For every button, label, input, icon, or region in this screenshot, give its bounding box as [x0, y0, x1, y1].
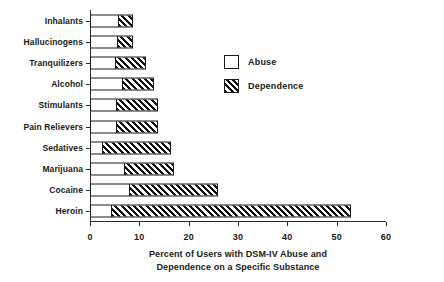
legend-swatch-dependence-icon — [224, 79, 239, 93]
x-tick — [139, 222, 140, 226]
bar-pain-relievers — [90, 120, 158, 133]
x-tick — [90, 222, 91, 226]
bar-segment-dependence — [129, 184, 218, 197]
bar-segment-dependence — [116, 120, 158, 133]
x-tick-label: 40 — [282, 232, 292, 242]
bar-segment-dependence — [117, 35, 133, 48]
x-tick-label: 50 — [331, 232, 341, 242]
chart-figure: 0102030405060 InhalantsHallucinogensTran… — [0, 0, 444, 282]
legend-item-dependence: Dependence — [224, 79, 304, 93]
bar-stimulants — [90, 99, 158, 112]
bar-segment-abuse — [90, 99, 116, 112]
y-tick-label-heroin: Heroin — [55, 206, 83, 216]
bar-segment-dependence — [124, 163, 174, 176]
x-tick-label: 20 — [183, 232, 193, 242]
bar-segment-abuse — [90, 14, 118, 27]
y-tick-label-tranquilizers: Tranquilizers — [29, 58, 83, 68]
bar-segment-abuse — [90, 163, 124, 176]
bar-segment-dependence — [102, 141, 171, 154]
bar-segment-abuse — [90, 184, 129, 197]
y-tick-label-cocaine: Cocaine — [49, 185, 83, 195]
bar-segment-dependence — [115, 57, 146, 70]
bar-sedatives — [90, 141, 171, 154]
y-tick-label-marijuana: Marijuana — [42, 164, 83, 174]
bar-heroin — [90, 205, 351, 218]
x-tick — [386, 222, 387, 226]
x-tick-label: 0 — [87, 232, 92, 242]
bar-segment-dependence — [111, 205, 352, 218]
y-tick-label-hallucinogens: Hallucinogens — [24, 37, 83, 47]
bar-segment-abuse — [90, 35, 117, 48]
bar-tranquilizers — [90, 57, 146, 70]
y-tick-label-sedatives: Sedatives — [42, 143, 83, 153]
legend-swatch-abuse-icon — [224, 55, 239, 69]
bar-segment-abuse — [90, 78, 122, 91]
x-tick — [189, 222, 190, 226]
x-axis-title-line-1: Percent of Users with DSM-IV Abuse and — [90, 248, 386, 261]
y-tick-label-stimulants: Stimulants — [39, 100, 83, 110]
y-tick-label-alcohol: Alcohol — [51, 79, 83, 89]
chart-legend: Abuse Dependence — [224, 55, 304, 103]
bar-hallucinogens — [90, 35, 133, 48]
x-tick-label: 30 — [233, 232, 243, 242]
bar-marijuana — [90, 163, 174, 176]
bar-alcohol — [90, 78, 154, 91]
bar-segment-abuse — [90, 141, 102, 154]
bar-inhalants — [90, 14, 133, 27]
legend-item-abuse: Abuse — [224, 55, 304, 69]
bar-segment-abuse — [90, 57, 115, 70]
bar-segment-abuse — [90, 205, 111, 218]
legend-label-dependence: Dependence — [248, 81, 304, 91]
y-tick-label-pain-relievers: Pain Relievers — [23, 122, 83, 132]
bar-segment-dependence — [116, 99, 158, 112]
bar-segment-dependence — [122, 78, 155, 91]
x-axis-title: Percent of Users with DSM-IV Abuse and D… — [90, 248, 386, 274]
bar-segment-abuse — [90, 120, 116, 133]
bar-cocaine — [90, 184, 218, 197]
x-tick-label: 60 — [381, 232, 391, 242]
legend-label-abuse: Abuse — [248, 57, 277, 67]
x-tick — [287, 222, 288, 226]
x-tick — [337, 222, 338, 226]
x-tick — [238, 222, 239, 226]
x-tick-label: 10 — [134, 232, 144, 242]
bar-segment-dependence — [118, 14, 134, 27]
y-tick-label-inhalants: Inhalants — [45, 16, 83, 26]
x-axis-title-line-2: Dependence on a Specific Substance — [90, 261, 386, 274]
plot-area: 0102030405060 InhalantsHallucinogensTran… — [90, 10, 386, 222]
